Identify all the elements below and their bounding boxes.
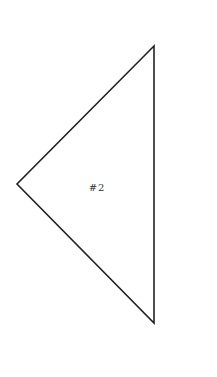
triangle-shape: [17, 46, 154, 323]
diagram-canvas: #2: [0, 0, 217, 377]
shape-label: #2: [89, 182, 106, 193]
